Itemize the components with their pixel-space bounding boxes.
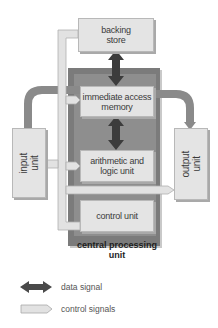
cpu-label-line1: central processing [74, 240, 160, 250]
control-branch-input [44, 160, 58, 168]
control-branch-output [66, 186, 174, 194]
control-bus [58, 30, 80, 230]
cpu-label: central processing unit [74, 240, 160, 260]
input-unit-box: input unit [12, 128, 46, 198]
arithmetic-logic-unit-box: arithmetic and logic unit [80, 150, 154, 182]
alu-label-line2: logic unit [90, 166, 144, 176]
output-unit-label-line2: unit [191, 156, 202, 171]
data-arrow-iam-alu [108, 116, 124, 150]
output-flow-pipe [152, 94, 190, 124]
output-unit-label: output unit [180, 151, 202, 178]
input-unit-label-line2: unit [29, 155, 40, 170]
input-unit-label-line1: input [18, 153, 29, 174]
control-unit-box: control unit [80, 200, 154, 232]
cpu-label-line2: unit [74, 250, 160, 260]
backing-store-label-line1: backing [101, 25, 131, 35]
control-unit-label: control unit [96, 211, 138, 221]
legend-data-signal-icon [20, 281, 52, 293]
legend-data-signal-label: data signal [61, 282, 102, 292]
iam-label-line1: immediate access [83, 92, 152, 102]
output-unit-box: output unit [174, 128, 208, 200]
data-arrow-backing-iam [108, 50, 124, 86]
input-unit-label: input unit [18, 153, 40, 174]
legend-control-signals-label: control signals [61, 304, 115, 314]
legend-control-signals-icon [21, 305, 52, 313]
iam-label-line2: memory [83, 102, 152, 112]
control-branch-alu [66, 162, 80, 170]
control-branch-iam [66, 96, 80, 104]
output-unit-label-line1: output [180, 151, 191, 178]
alu-label-line1: arithmetic and [90, 156, 144, 166]
backing-store-label-line2: store [101, 35, 131, 45]
backing-store-box: backing store [78, 18, 154, 52]
immediate-access-memory-box: immediate access memory [80, 86, 154, 117]
